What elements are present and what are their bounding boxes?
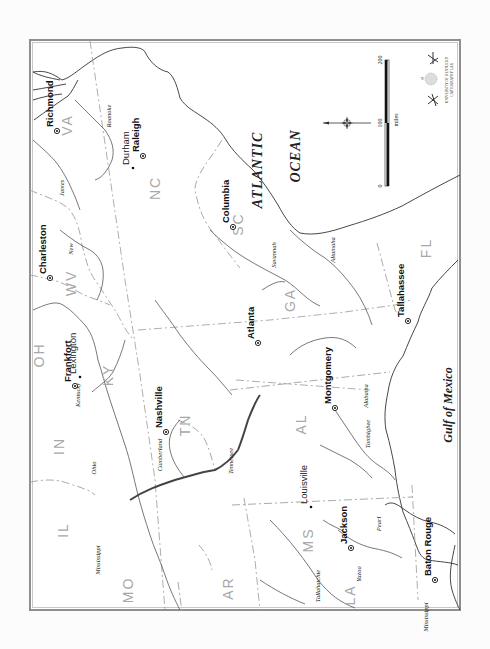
river-label-mississippi: Mississippi (94, 545, 101, 575)
state-label-sc: SC (230, 212, 246, 235)
state-label-in: IN (51, 437, 67, 455)
capital-nashville[interactable]: Nashville (153, 386, 169, 434)
capital-label: Tallahassee (395, 264, 406, 317)
ocean-label: ATLANTIC OCEAN (250, 129, 303, 209)
state-label-mo: MO (120, 577, 136, 604)
state-label-oh: OH (31, 343, 47, 368)
river-label-yazoo: Yazoo (355, 566, 362, 582)
scale-tick-0: 0 (377, 185, 383, 188)
river-label-mississippi: Mississippi (422, 602, 429, 632)
compass-north-label: N (421, 77, 424, 81)
scale-bar: 0 100 200 miles (377, 56, 399, 188)
river-label-cumberland: Cumberland (156, 438, 163, 471)
town-lexington[interactable]: Lexington (67, 333, 81, 379)
gulf-label: Gulf of Mexico (441, 367, 455, 442)
river-label-savannah: Savannah (270, 242, 277, 268)
river-label-james: James (58, 179, 65, 196)
river-label-tallahatchie: Tallahatchie (314, 570, 321, 602)
capital-cities: RichmondRaleighColumbiaCharlestonFrankfo… (37, 80, 438, 582)
state-labels: VANCSCWVOHKYGAFLTNINALILMSMOARLA (31, 114, 434, 605)
credit-line1: UNIVERSITY OF KENTUCKY (445, 56, 449, 103)
capital-label: Baton Rouge (422, 517, 433, 576)
state-label-fl: FL (418, 238, 434, 258)
cartography-lab-logo: N UNIVERSITY OF KENTUCKY CARTOGRAPHY LAB (421, 52, 454, 106)
capital-label: Nashville (153, 386, 164, 428)
town-louisville[interactable]: Louisville (298, 465, 312, 508)
capital-label: Richmond (44, 80, 55, 127)
river-label-alabama: Alabama (362, 384, 369, 408)
capital-label: Atlanta (245, 306, 256, 339)
state-label-tn: TN (177, 414, 193, 437)
credit-line2: CARTOGRAPHY LAB (450, 62, 454, 96)
capital-atlanta[interactable]: Atlanta (245, 306, 261, 346)
capital-charleston[interactable]: Charleston (37, 224, 53, 280)
state-label-ar: AR (220, 576, 236, 599)
capital-jackson[interactable]: Jackson (338, 506, 354, 551)
river-label-tombigbee: Tombigbee (364, 420, 371, 448)
river-label-tennessee: Tennessee (227, 448, 234, 474)
scale-unit: miles (393, 113, 399, 127)
state-label-ky: KY (100, 364, 116, 387)
capital-label: Columbia (220, 179, 231, 223)
river-label-new: New (67, 243, 74, 256)
map-canvas[interactable]: ATLANTIC OCEAN Gulf of Mexico VANCSCWVOH… (0, 0, 490, 649)
river-label-kentucky: Kentucky (74, 383, 81, 408)
town-dot-icon (132, 167, 135, 170)
capital-baton-rouge[interactable]: Baton Rouge (422, 517, 438, 583)
scale-tick-100: 100 (377, 119, 383, 128)
capital-label: Raleigh (130, 117, 141, 152)
river-label-ohio: Ohio (90, 461, 97, 475)
state-label-wv: WV (63, 270, 79, 297)
chesapeake-outline (33, 72, 78, 120)
town-label: Lexington (67, 333, 78, 374)
state-label-ga: GA (282, 288, 298, 312)
town-dot-icon (79, 376, 82, 379)
figure-icon (428, 94, 438, 106)
state-label-la: LA (342, 584, 358, 605)
capital-label: Montgomery (322, 346, 333, 404)
river-label-altamaha: Altamaha (329, 237, 336, 263)
compass-rose-icon (323, 117, 371, 129)
state-label-nc: NC (147, 176, 163, 200)
capital-label: Jackson (338, 506, 349, 544)
ocean-label-line1: ATLANTIC (250, 132, 265, 209)
capital-richmond[interactable]: Richmond (44, 80, 60, 133)
capital-montgomery[interactable]: Montgomery (322, 346, 338, 410)
state-label-va: VA (59, 114, 75, 136)
town-label: Durham (120, 131, 131, 165)
scale-tick-200: 200 (377, 56, 383, 65)
river-label-pearl: Pearl (375, 517, 382, 533)
river-label-roanoke: Roanoke (105, 105, 112, 129)
town-label: Louisville (298, 465, 309, 504)
atlantic-coastline (33, 47, 460, 234)
figure-icon (428, 52, 438, 64)
capital-raleigh[interactable]: Raleigh (130, 117, 146, 158)
capital-label: Charleston (37, 224, 48, 274)
ocean-label-line2: OCEAN (288, 129, 303, 182)
state-label-al: AL (293, 413, 309, 434)
state-label-ms: MS (300, 528, 316, 553)
towns: DurhamLexingtonLouisville (67, 131, 312, 508)
town-dot-icon (310, 506, 313, 509)
state-label-il: IL (55, 522, 71, 538)
state-borders (30, 41, 418, 612)
capital-tallahassee[interactable]: Tallahassee (395, 264, 411, 324)
